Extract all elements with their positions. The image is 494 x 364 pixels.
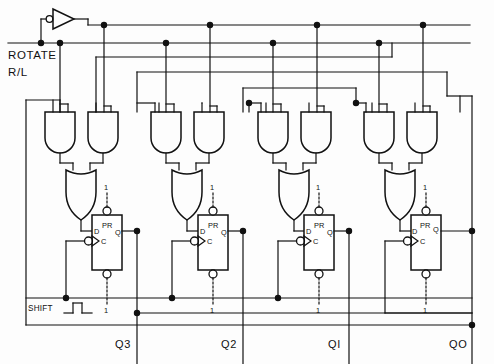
junction-rotate-tap [38,40,43,45]
and-gate-3b [88,112,118,153]
ff2-c-label: C [207,237,213,246]
output-label-q2: Q2 [221,338,237,350]
ff0-q-label: Q [433,225,439,234]
ff0-clear-high: 1 [423,306,427,315]
or-gate-3 [66,170,96,220]
rotate-label-line1: ROTATE [8,49,57,61]
ff0-d-label: D [412,227,417,236]
shift-label: SHIFT [28,304,53,313]
rotate-inverter [41,9,88,43]
and-gate-2b [194,112,224,153]
ff0-preset-high: 1 [423,183,427,192]
ff2-pr-label: PR [208,221,218,230]
ff3-d-label: D [94,227,99,236]
ff1-preset-high: 1 [316,183,320,192]
or-gate-0 [385,170,415,220]
output-label-q3: Q3 [115,338,131,350]
ff0-pr-label: PR [420,221,430,230]
ff2-clear-high: 1 [210,306,214,315]
junction-a [57,40,62,45]
ff1-d-label: D [306,227,311,236]
flipflop-0 [385,192,472,313]
feedback-rail-5 [137,103,155,112]
ff1-c-label: C [313,237,319,246]
junction-q0 [469,228,474,233]
flipflop-1 [278,192,349,305]
feedback-rail-2 [137,72,447,112]
ff3-pr-label: PR [102,221,112,230]
ff3-clear-high: 1 [104,306,108,315]
and-gate-0a [364,112,394,153]
ff3-q-label: Q [115,228,121,237]
and-gate-0b [407,112,437,153]
shift-register-schematic: ROTATE R/L SHIFT D PR Q C 1 1 D PR Q C 1… [0,0,494,364]
junction-e [270,40,275,45]
junction-d [207,22,212,27]
ff3-preset-high: 1 [104,183,108,192]
ff2-d-label: D [200,227,205,236]
and-gate-2a [151,112,181,153]
flipflop-3 [66,192,137,305]
ff0-c-label: C [420,237,426,246]
left-frame-wire [26,100,472,325]
and-gate-1b [301,112,331,153]
and-gate-1a [258,112,288,153]
junction-b [101,22,106,27]
junction-c [163,40,168,45]
junction-j [246,100,251,105]
ff1-pr-label: PR [314,221,324,230]
feedback-rail-6 [447,96,472,325]
rotate-label-line2: R/L [8,66,28,78]
ff1-clear-high: 1 [316,306,320,315]
flipflop-2 [172,192,243,305]
or-gate-1 [279,170,309,220]
ff3-c-label: C [101,237,107,246]
ff2-preset-high: 1 [210,183,214,192]
junction-g [376,40,381,45]
junction-i [353,100,358,105]
output-label-q1: QI [328,338,341,350]
ff1-q-label: Q [327,228,333,237]
or-gate-2 [172,170,202,220]
output-label-q0: QO [449,338,468,350]
shift-waveform-symbol [64,303,92,313]
junction-f [314,22,319,27]
feedback-rail-1 [96,43,392,112]
junction-h [420,22,425,27]
ff2-q-label: Q [221,228,227,237]
and-gate-3a [45,112,75,153]
